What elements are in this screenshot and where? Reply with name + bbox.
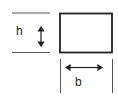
rectangle-dimension-diagram: [0, 0, 118, 100]
height-arrow-icon: [39, 27, 44, 46]
rectangle-shape: [60, 14, 112, 53]
width-arrow-icon: [66, 65, 102, 70]
width-label: b: [75, 76, 82, 88]
height-label: h: [16, 25, 23, 37]
